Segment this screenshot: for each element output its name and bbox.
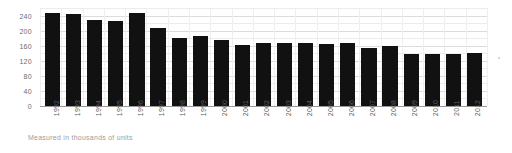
- x-axis-tick-label: 1995: [116, 100, 123, 116]
- bar: [129, 13, 144, 106]
- bar: [150, 28, 165, 106]
- y-axis-tick-label: 0: [28, 103, 32, 110]
- x-axis-tick-label: 2011: [453, 100, 460, 116]
- bar: [87, 20, 102, 106]
- bar: [45, 13, 60, 106]
- x-axis-tick-label: 2007: [369, 100, 376, 116]
- y-axis-tick-label: 120: [19, 57, 32, 64]
- x-axis-tick-label: 2004: [306, 100, 313, 116]
- bar-series: [40, 8, 487, 106]
- x-tick-slot: 1994: [84, 107, 105, 133]
- bar-slot: [337, 8, 358, 106]
- x-axis-tick-label: 1992: [53, 100, 60, 116]
- bar: [361, 48, 376, 106]
- bar-slot: [232, 8, 253, 106]
- bar-slot: [443, 8, 464, 106]
- x-axis-tick-label: 1998: [179, 100, 186, 116]
- y-axis: 04080120160200240: [0, 8, 36, 106]
- x-axis-tick-label: 1994: [95, 100, 102, 116]
- x-tick-slot: 1992: [42, 107, 63, 133]
- x-axis-tick-label: 1997: [158, 100, 165, 116]
- bar-slot: [422, 8, 443, 106]
- x-axis-tick-label: 1996: [137, 100, 144, 116]
- bar-slot: [190, 8, 211, 106]
- bar: [467, 53, 482, 106]
- x-axis-tick-label: 2001: [242, 100, 249, 116]
- bar: [425, 54, 440, 106]
- x-tick-slot: 2011: [443, 107, 464, 133]
- vertical-gridline: [487, 8, 488, 106]
- bar: [277, 43, 292, 106]
- x-tick-slot: 2001: [232, 107, 253, 133]
- bar-slot: [274, 8, 295, 106]
- bar: [404, 54, 419, 106]
- x-tick-slot: 1999: [190, 107, 211, 133]
- bar-slot: [211, 8, 232, 106]
- bar: [446, 54, 461, 106]
- bar: [214, 40, 229, 106]
- x-axis-tick-label: 2012: [474, 100, 481, 116]
- x-tick-slot: 1997: [147, 107, 168, 133]
- bar: [340, 43, 355, 106]
- x-axis-tick-label: 2008: [390, 100, 397, 116]
- bar: [298, 43, 313, 106]
- bar: [108, 21, 123, 106]
- x-axis-tick-label: 2000: [221, 100, 228, 116]
- scan-speck: [498, 57, 500, 59]
- y-axis-tick-label: 200: [19, 27, 32, 34]
- bar-slot: [84, 8, 105, 106]
- x-axis-tick-label: 2009: [411, 100, 418, 116]
- x-tick-slot: 2000: [211, 107, 232, 133]
- bar-slot: [401, 8, 422, 106]
- bar-slot: [316, 8, 337, 106]
- x-tick-slot: 2008: [380, 107, 401, 133]
- x-axis-tick-label: 2003: [285, 100, 292, 116]
- x-axis-tick-label: 2002: [263, 100, 270, 116]
- chart-caption: Measured in thousands of units: [28, 134, 133, 141]
- bar-slot: [253, 8, 274, 106]
- x-axis-tick-label: 2005: [327, 100, 334, 116]
- x-tick-slot: 2012: [464, 107, 485, 133]
- bar-slot: [380, 8, 401, 106]
- x-tick-slot: 2010: [422, 107, 443, 133]
- x-tick-slot: 2004: [295, 107, 316, 133]
- x-tick-slot: 2002: [253, 107, 274, 133]
- bar: [66, 14, 81, 106]
- x-tick-slot: 2005: [316, 107, 337, 133]
- bar-chart-figure: 04080120160200240 1992199319941995199619…: [0, 0, 512, 153]
- y-axis-tick-label: 80: [24, 72, 32, 79]
- x-tick-slot: 2007: [358, 107, 379, 133]
- bar: [235, 45, 250, 106]
- x-axis-tick-label: 2010: [432, 100, 439, 116]
- x-tick-slot: 2003: [274, 107, 295, 133]
- bar-slot: [464, 8, 485, 106]
- bar: [319, 44, 334, 106]
- x-tick-slot: 2006: [337, 107, 358, 133]
- x-tick-slot: 1993: [63, 107, 84, 133]
- bar: [172, 38, 187, 106]
- bar-slot: [63, 8, 84, 106]
- plot-area: [40, 8, 487, 106]
- x-tick-slot: 2009: [401, 107, 422, 133]
- y-axis-tick-label: 160: [19, 42, 32, 49]
- x-axis-tick-label: 1993: [74, 100, 81, 116]
- y-axis-tick-label: 240: [19, 12, 32, 19]
- bar-slot: [147, 8, 168, 106]
- x-axis-tick-label: 1999: [200, 100, 207, 116]
- x-axis: 1992199319941995199619971998199920002001…: [40, 107, 487, 133]
- x-tick-slot: 1996: [126, 107, 147, 133]
- x-tick-slot: 1998: [169, 107, 190, 133]
- y-axis-tick-label: 40: [24, 87, 32, 94]
- bar: [193, 36, 208, 106]
- bar-slot: [42, 8, 63, 106]
- bar-slot: [169, 8, 190, 106]
- x-axis-tick-label: 2006: [348, 100, 355, 116]
- bar-slot: [105, 8, 126, 106]
- bar: [256, 43, 271, 106]
- bar: [382, 46, 397, 106]
- bar-slot: [358, 8, 379, 106]
- bar-slot: [295, 8, 316, 106]
- x-tick-slot: 1995: [105, 107, 126, 133]
- bar-slot: [126, 8, 147, 106]
